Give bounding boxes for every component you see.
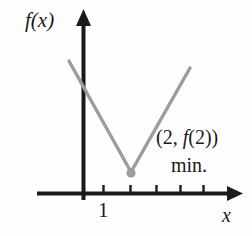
- function-graph-figure: f(x) x 1 (2, f(2)) min.: [0, 0, 252, 236]
- x-axis-arrowhead: [227, 186, 243, 201]
- plot-canvas: [0, 0, 252, 236]
- x-axis-label: x: [222, 205, 231, 225]
- x-tick-label-1: 1: [98, 200, 109, 221]
- minimum-point-marker: [126, 168, 135, 177]
- minimum-label: min.: [171, 155, 207, 175]
- y-axis-label: f(x): [25, 10, 54, 31]
- y-axis-arrowhead: [76, 9, 91, 26]
- annotation-close-paren: (2)): [188, 126, 218, 148]
- minimum-point-annotation: (2, f(2)): [156, 127, 218, 147]
- annotation-open-paren: (2,: [156, 126, 183, 148]
